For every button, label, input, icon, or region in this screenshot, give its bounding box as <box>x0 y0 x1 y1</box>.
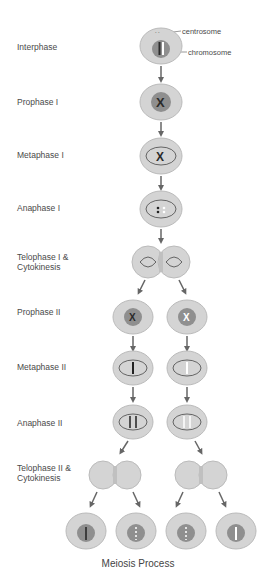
cell-metaphase-1: X <box>140 138 182 174</box>
daughter-cell-2 <box>116 513 156 549</box>
cell-metaphase-2-right <box>167 351 207 385</box>
daughter-cell-4 <box>216 513 256 549</box>
cell-anaphase-2-left <box>113 405 153 439</box>
cell-telophase-2-left <box>89 461 141 489</box>
svg-text:X: X <box>129 312 136 323</box>
cell-prophase-2-right: X <box>167 300 207 334</box>
cell-telophase-2-right <box>175 461 227 489</box>
cell-prophase-1: X <box>140 84 182 120</box>
svg-text:X: X <box>156 95 165 110</box>
cell-anaphase-2-right <box>167 405 207 439</box>
cell-metaphase-2-left <box>113 351 153 385</box>
cell-interphase: ` ` <box>140 28 182 64</box>
diagram-title: Meiosis Process <box>0 558 276 569</box>
svg-text:X: X <box>183 312 190 323</box>
cell-prophase-2-left: X <box>113 300 153 334</box>
meiosis-diagram: ` ` X X X X <box>0 0 276 588</box>
svg-text:` `: ` ` <box>155 31 160 37</box>
svg-text:X: X <box>156 150 164 164</box>
daughter-cell-3 <box>166 513 206 549</box>
daughter-cell-1 <box>66 513 106 549</box>
cell-telophase-1 <box>132 246 190 278</box>
cell-anaphase-1 <box>140 191 182 227</box>
